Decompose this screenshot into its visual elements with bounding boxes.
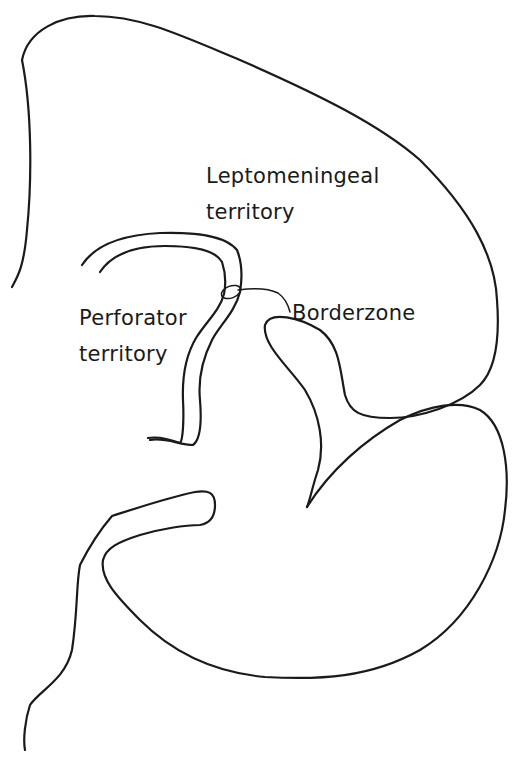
- perforator-label-line2: territory: [79, 336, 187, 372]
- borderzone-label-text: Borderzone: [292, 295, 416, 331]
- leptomeningeal-territory-label: Leptomeningeal territory: [206, 158, 380, 230]
- perforator-label-line1: Perforator: [79, 300, 187, 336]
- perforator-territory-label: Perforator territory: [79, 300, 187, 372]
- borderzone-label: Borderzone: [292, 295, 416, 331]
- brain-territory-drawing: [0, 0, 514, 760]
- temporal-lobe-outline: [24, 405, 507, 750]
- leptomeningeal-label-line1: Leptomeningeal: [206, 158, 380, 194]
- borderzone-leader-line: [238, 289, 290, 312]
- diagram-canvas: Leptomeningeal territory Perforator terr…: [0, 0, 514, 760]
- leptomeningeal-label-line2: territory: [206, 194, 380, 230]
